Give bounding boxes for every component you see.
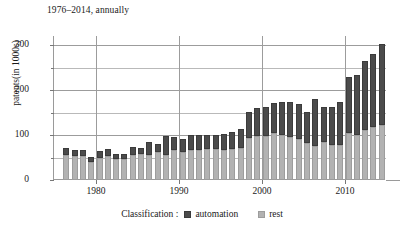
bar-segment-automation-1979: [88, 157, 94, 162]
bar-segment-automation-1987: [155, 144, 161, 152]
bar-segment-rest-2013: [370, 127, 376, 180]
bar-segment-automation-1997: [238, 129, 244, 147]
y-tick-label-0: 0: [0, 175, 29, 185]
bar-1982: [113, 36, 119, 180]
bar-segment-rest-2008: [329, 145, 335, 180]
bar-segment-automation-1978: [80, 150, 86, 156]
bar-1999: [254, 36, 260, 180]
bar-series-group: [54, 36, 386, 180]
y-tick-label-100: 100: [0, 130, 29, 140]
bar-segment-automation-1986: [146, 142, 152, 155]
bar-2008: [329, 36, 335, 180]
y-tick-mark-minor-150: [51, 113, 54, 114]
x-axis-extension: [386, 180, 400, 181]
bar-segment-automation-2003: [287, 102, 293, 138]
legend-entry-automation: automation: [184, 209, 238, 219]
bar-1980: [97, 36, 103, 180]
bar-segment-rest-1976: [63, 155, 69, 180]
bar-segment-automation-2010: [346, 77, 352, 133]
bar-2010: [346, 36, 352, 180]
x-tick-mark-2000: [262, 180, 263, 184]
bar-segment-automation-1983: [121, 154, 127, 159]
bar-segment-automation-1977: [72, 150, 78, 156]
bar-2005: [304, 36, 310, 180]
bar-1994: [213, 36, 219, 180]
bar-segment-automation-1984: [130, 147, 136, 155]
bar-segment-rest-2004: [296, 139, 302, 180]
bar-2014: [379, 36, 385, 180]
bar-segment-rest-2003: [287, 137, 293, 180]
bar-segment-automation-1981: [105, 149, 111, 156]
bar-segment-rest-1996: [229, 149, 235, 180]
bar-segment-rest-2001: [271, 133, 277, 180]
bar-segment-automation-1989: [171, 137, 177, 151]
bar-segment-automation-1994: [213, 135, 219, 150]
bar-2012: [362, 36, 368, 180]
bar-segment-rest-1993: [204, 149, 210, 180]
bar-segment-rest-1977: [72, 156, 78, 180]
bar-1991: [188, 36, 194, 180]
bar-segment-rest-1998: [246, 138, 252, 180]
bar-segment-automation-2014: [379, 44, 385, 125]
bar-segment-automation-2002: [279, 102, 285, 135]
bar-segment-automation-1996: [229, 132, 235, 149]
bar-segment-automation-1992: [196, 135, 202, 150]
legend-label-rest: rest: [269, 209, 283, 219]
bar-segment-rest-1995: [221, 150, 227, 180]
bar-2000: [263, 36, 269, 180]
bar-segment-automation-1991: [188, 135, 194, 151]
x-tick-label-1990: 1990: [159, 186, 199, 196]
bar-segment-rest-1985: [138, 154, 144, 180]
chart-title: 1976–2014, annually: [47, 5, 129, 15]
bar-segment-automation-1995: [221, 134, 227, 150]
bar-2004: [296, 36, 302, 180]
y-tick-mark-minor-250: [51, 68, 54, 69]
bar-segment-rest-1989: [171, 150, 177, 180]
x-tick-label-2000: 2000: [242, 186, 282, 196]
bar-segment-automation-1990: [180, 139, 186, 152]
bar-segment-automation-2011: [354, 75, 360, 135]
bar-1978: [80, 36, 86, 180]
bar-1979: [88, 36, 94, 180]
bar-2006: [312, 36, 318, 180]
bar-segment-rest-2002: [279, 135, 285, 180]
bar-1987: [155, 36, 161, 180]
bar-segment-rest-1987: [155, 152, 161, 180]
bar-2007: [321, 36, 327, 180]
bar-segment-automation-2004: [296, 104, 302, 139]
chart-legend: Classification : automation rest: [0, 209, 404, 219]
bar-segment-automation-1980: [97, 151, 103, 157]
bar-segment-rest-1994: [213, 149, 219, 180]
bar-1981: [105, 36, 111, 180]
y-tick-mark-200: [50, 90, 54, 91]
bar-2009: [337, 36, 343, 180]
bar-1977: [72, 36, 78, 180]
y-tick-mark-100: [50, 135, 54, 136]
bar-segment-rest-1982: [113, 159, 119, 180]
bar-segment-automation-2008: [329, 107, 335, 145]
bar-1989: [171, 36, 177, 180]
bar-1986: [146, 36, 152, 180]
bar-1992: [196, 36, 202, 180]
bar-1983: [121, 36, 127, 180]
bar-segment-automation-1982: [113, 154, 119, 159]
bar-segment-automation-2012: [362, 61, 368, 129]
bar-1984: [130, 36, 136, 180]
bar-segment-rest-1980: [97, 158, 103, 181]
legend-entry-rest: rest: [258, 209, 283, 219]
y-tick-mark-300: [50, 45, 54, 46]
bar-segment-automation-1999: [254, 108, 260, 136]
bar-2013: [370, 36, 376, 180]
legend-title: Classification :: [121, 209, 178, 219]
bar-segment-rest-1999: [254, 136, 260, 180]
bar-segment-automation-1998: [246, 112, 252, 138]
bar-segment-rest-2010: [346, 133, 352, 180]
bar-segment-automation-1985: [138, 148, 144, 155]
bar-segment-automation-1976: [63, 148, 69, 156]
bar-segment-rest-1991: [188, 150, 194, 180]
bar-segment-rest-1986: [146, 155, 152, 180]
plot-area: 0100200300 1980199020002010: [53, 36, 385, 180]
bar-segment-automation-2001: [271, 103, 277, 133]
bar-segment-automation-2006: [312, 99, 318, 146]
bar-1976: [63, 36, 69, 180]
